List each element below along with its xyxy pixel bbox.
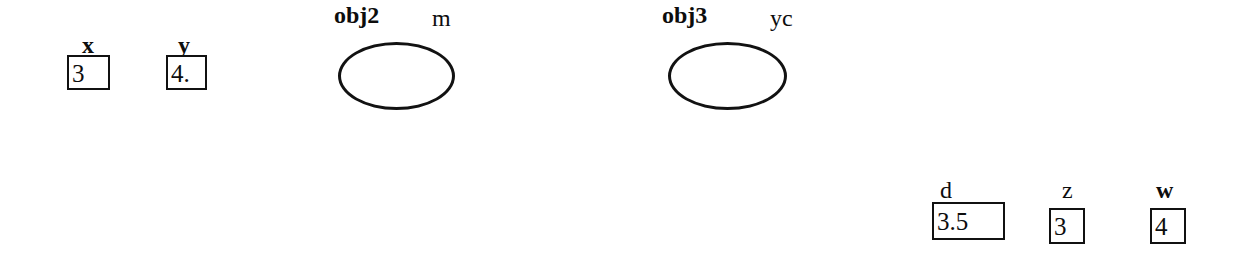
variable-box-y[interactable]: 4. <box>166 55 207 90</box>
variable-box-z[interactable]: 3 <box>1049 208 1085 244</box>
variable-value-w: 4 <box>1155 214 1168 239</box>
object-id-label-obj3: obj3 <box>662 3 707 27</box>
object-type-label-obj3: yc <box>770 6 793 30</box>
variable-label-w: w <box>1156 178 1173 202</box>
variable-value-z: 3 <box>1054 214 1067 239</box>
variable-box-x[interactable]: 3 <box>67 55 110 90</box>
diagram-canvas: x 3 y 4. obj2 m obj3 yc d 3.5 z 3 w 4 <box>0 0 1250 262</box>
object-ellipse-obj2[interactable] <box>338 42 455 110</box>
variable-label-y: y <box>178 33 190 57</box>
object-ellipse-obj3[interactable] <box>668 42 787 110</box>
object-type-label-obj2: m <box>432 6 451 30</box>
variable-value-d: 3.5 <box>937 209 968 234</box>
variable-label-x: x <box>82 33 94 57</box>
variable-box-d[interactable]: 3.5 <box>932 202 1005 240</box>
object-id-label-obj2: obj2 <box>334 3 379 27</box>
variable-box-w[interactable]: 4 <box>1150 208 1186 244</box>
variable-value-y: 4. <box>171 60 190 85</box>
variable-value-x: 3 <box>72 60 85 85</box>
variable-label-z: z <box>1062 178 1073 202</box>
variable-label-d: d <box>940 178 952 202</box>
